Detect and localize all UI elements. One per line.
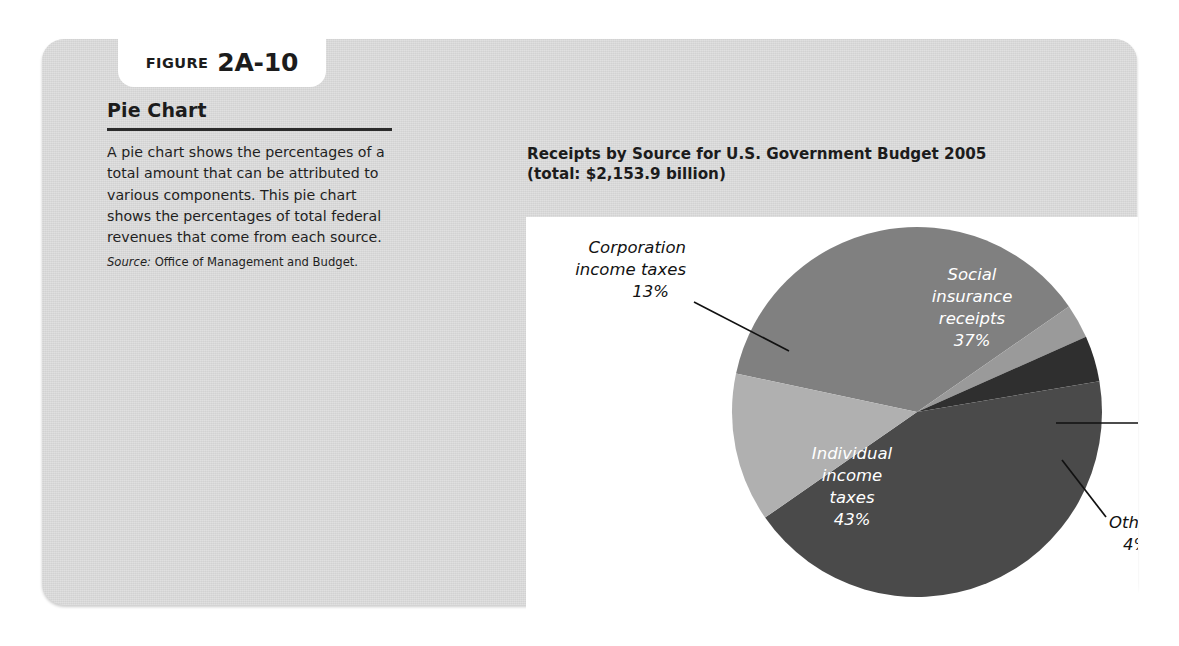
pie-label-corporation-income-taxes: Corporation income taxes 13% [575, 238, 686, 301]
pie-label-other: Other 4% [1109, 513, 1138, 554]
pie-label-individual-percent: 43% [834, 510, 871, 529]
chart-title: Receipts by Source for U.S. Government B… [527, 144, 1087, 184]
source-text: Office of Management and Budget. [155, 255, 358, 269]
chart-title-line-2: (total: $2,153.9 billion) [527, 164, 1087, 184]
pie-label-social-line-3: receipts [939, 309, 1006, 328]
source-note: Source: Office of Management and Budget. [107, 255, 402, 271]
pie-label-social-line-1: Social [948, 265, 997, 284]
figure-number: 2A-10 [217, 48, 298, 77]
pie-label-corporation-line-2: income taxes [575, 260, 686, 279]
pie-chart: Corporation income taxes 13% Excise taxe… [526, 217, 1138, 610]
pie-label-corporation-line-1: Corporation [589, 238, 686, 257]
page-title: Pie Chart [107, 99, 407, 121]
source-label: Source: [107, 255, 151, 269]
pie-label-other-line-1: Other [1109, 513, 1138, 532]
pie-label-social-line-2: insurance [932, 287, 1013, 306]
pie-label-individual-line-1: Individual [812, 444, 893, 463]
figure-label-word: FIGURE [146, 55, 208, 71]
chart-title-line-1: Receipts by Source for U.S. Government B… [527, 144, 1087, 164]
figure-number-tab: FIGURE 2A-10 [118, 38, 326, 87]
figure-description-column: Pie Chart A pie chart shows the percenta… [107, 99, 407, 271]
pie-label-individual-line-2: income [822, 466, 882, 485]
chart-plate: Corporation income taxes 13% Excise taxe… [526, 217, 1138, 610]
pie-label-other-percent: 4% [1123, 535, 1138, 554]
description-text: A pie chart shows the percentages of a t… [107, 142, 395, 248]
pie-label-social-percent: 37% [954, 331, 991, 350]
figure-panel: FIGURE 2A-10 Pie Chart A pie chart shows… [42, 39, 1137, 605]
title-divider [107, 128, 392, 131]
pie-label-individual-line-3: taxes [829, 488, 874, 507]
pie-label-corporation-percent: 13% [632, 282, 669, 301]
